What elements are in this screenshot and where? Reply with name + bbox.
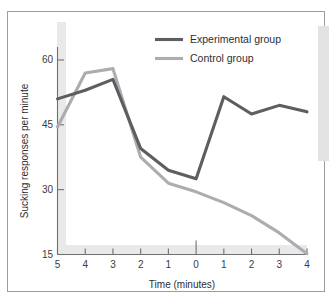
line-chart: 15304560 5432101234 Sucking responses pe… bbox=[0, 0, 334, 305]
x-axis-ticks bbox=[58, 241, 308, 255]
y-axis-title: Sucking responses per minute bbox=[19, 83, 30, 218]
y-tick-label-30: 30 bbox=[42, 184, 54, 195]
x-tick-label-7: 2 bbox=[249, 259, 255, 270]
x-tick-label-6: 1 bbox=[221, 259, 227, 270]
x-tick-label-0: 5 bbox=[55, 259, 61, 270]
legend-label-control: Control group bbox=[190, 52, 254, 64]
figure-root: 15304560 5432101234 Sucking responses pe… bbox=[0, 0, 334, 305]
x-tick-label-8: 3 bbox=[276, 259, 282, 270]
series-line-control-group bbox=[58, 69, 308, 254]
legend: Experimental group Control group bbox=[155, 33, 281, 64]
x-tick-label-9: 4 bbox=[304, 259, 310, 270]
y-axis: 15304560 bbox=[42, 47, 64, 260]
series-lines bbox=[58, 69, 308, 254]
x-tick-label-2: 3 bbox=[110, 259, 116, 270]
x-axis-title: Time (minutes) bbox=[149, 279, 215, 290]
x-tick-label-5: 0 bbox=[193, 259, 199, 270]
x-tick-label-1: 4 bbox=[82, 259, 88, 270]
y-tick-label-60: 60 bbox=[42, 54, 54, 65]
x-axis: 5432101234 bbox=[55, 241, 311, 271]
series-line-experimental-group bbox=[58, 79, 308, 178]
legend-label-experimental: Experimental group bbox=[190, 33, 281, 45]
y-tick-label-15: 15 bbox=[42, 249, 54, 260]
y-axis-ticks bbox=[58, 60, 65, 255]
x-tick-label-4: 1 bbox=[166, 259, 172, 270]
x-axis-tick-labels: 5432101234 bbox=[55, 259, 311, 270]
y-tick-label-45: 45 bbox=[42, 119, 54, 130]
x-tick-label-3: 2 bbox=[138, 259, 144, 270]
y-axis-tick-labels: 15304560 bbox=[42, 54, 54, 260]
